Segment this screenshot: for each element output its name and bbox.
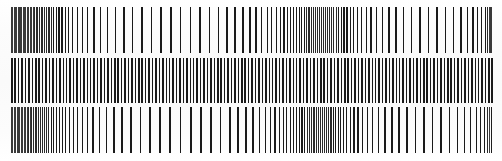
bar bbox=[196, 58, 198, 103]
bar bbox=[313, 107, 314, 153]
bar bbox=[217, 58, 219, 103]
bar bbox=[461, 58, 463, 103]
bar bbox=[282, 58, 284, 103]
bar bbox=[325, 7, 326, 53]
bar bbox=[315, 7, 316, 53]
bar bbox=[321, 7, 322, 53]
bar bbox=[59, 58, 61, 103]
bar bbox=[42, 7, 43, 53]
bar bbox=[190, 7, 192, 53]
bar bbox=[411, 7, 413, 53]
bar bbox=[218, 7, 220, 53]
bar bbox=[186, 58, 188, 103]
bar bbox=[65, 7, 66, 53]
bar bbox=[114, 58, 116, 103]
bar bbox=[416, 58, 418, 103]
bar bbox=[375, 58, 377, 103]
bar bbox=[44, 7, 45, 53]
bar bbox=[111, 58, 113, 103]
bar bbox=[460, 7, 462, 53]
bar bbox=[309, 107, 310, 153]
bar bbox=[123, 7, 125, 53]
bar bbox=[104, 58, 106, 103]
bar bbox=[303, 58, 305, 103]
bar-band-3 bbox=[0, 107, 502, 153]
bar bbox=[83, 58, 85, 103]
bar bbox=[200, 107, 202, 153]
bar bbox=[453, 7, 455, 53]
bar bbox=[269, 58, 271, 103]
bar bbox=[362, 107, 363, 153]
bar bbox=[69, 58, 71, 103]
bar bbox=[87, 58, 89, 103]
bar bbox=[149, 107, 151, 153]
bar-band-2 bbox=[0, 58, 502, 103]
bar bbox=[92, 107, 94, 153]
bar bbox=[440, 58, 442, 103]
bar bbox=[279, 107, 280, 153]
bar bbox=[350, 7, 351, 53]
bar bbox=[166, 58, 168, 103]
bar bbox=[21, 58, 23, 103]
bar bbox=[132, 7, 134, 53]
bar bbox=[319, 7, 320, 53]
bar bbox=[358, 58, 360, 103]
bar bbox=[311, 107, 312, 153]
bar bbox=[468, 58, 470, 103]
bar bbox=[169, 58, 171, 103]
bar bbox=[113, 107, 115, 153]
bar bbox=[391, 107, 393, 153]
bar bbox=[372, 58, 374, 103]
bar bbox=[289, 58, 291, 103]
bar bbox=[251, 58, 253, 103]
bar bbox=[82, 107, 83, 153]
bar bbox=[203, 58, 205, 103]
bar bbox=[226, 7, 228, 53]
bar bbox=[130, 107, 132, 153]
bar bbox=[59, 107, 60, 153]
bar bbox=[335, 107, 336, 153]
bar bbox=[428, 7, 430, 53]
bar bbox=[415, 107, 417, 153]
bar bbox=[310, 58, 312, 103]
bar bbox=[52, 58, 54, 103]
bar bbox=[32, 58, 34, 103]
bar bbox=[220, 107, 222, 153]
bar bbox=[301, 107, 302, 153]
bar bbox=[66, 58, 68, 103]
bar bbox=[190, 58, 192, 103]
bar bbox=[484, 107, 485, 153]
bar bbox=[343, 107, 344, 153]
bar bbox=[361, 7, 362, 53]
bar bbox=[99, 107, 101, 153]
bar bbox=[183, 58, 185, 103]
bar bbox=[317, 58, 319, 103]
bar bbox=[433, 58, 435, 103]
bar bbox=[93, 58, 95, 103]
bar bbox=[107, 7, 109, 53]
bar bbox=[398, 107, 400, 153]
bar bbox=[347, 58, 349, 103]
bar bbox=[351, 58, 353, 103]
bar bbox=[330, 58, 332, 103]
bar bbox=[382, 7, 384, 53]
bar bbox=[382, 58, 384, 103]
bar bbox=[138, 58, 140, 103]
bar bbox=[210, 58, 212, 103]
bar bbox=[357, 107, 358, 153]
bar bbox=[293, 107, 294, 153]
bar bbox=[447, 58, 449, 103]
bar bbox=[327, 58, 329, 103]
bar bbox=[388, 7, 390, 53]
bar bbox=[368, 58, 370, 103]
bar bbox=[231, 58, 233, 103]
bar bbox=[384, 107, 386, 153]
bar bbox=[234, 7, 236, 53]
bar bbox=[341, 7, 342, 53]
bar bbox=[313, 58, 315, 103]
bar bbox=[58, 7, 59, 53]
bar bbox=[481, 58, 483, 103]
bar bbox=[100, 7, 102, 53]
bar bbox=[323, 7, 324, 53]
bar bbox=[267, 7, 268, 53]
